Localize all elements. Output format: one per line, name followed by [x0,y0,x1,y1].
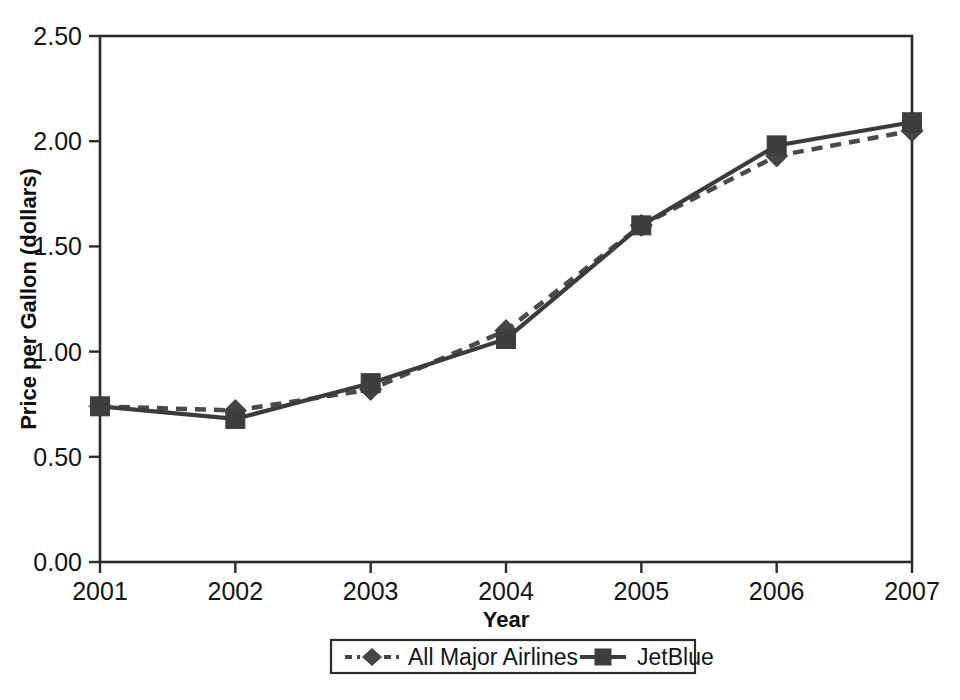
data-point-marker [226,409,245,428]
x-tick-label: 2001 [72,577,128,605]
legend-label-jetblue: JetBlue [637,644,714,670]
data-point-marker [497,329,516,348]
data-point-marker [767,136,786,155]
series-line-all-major-airlines [100,131,912,411]
legend-label-all-major-airlines: All Major Airlines [408,644,578,670]
square-marker-icon [595,649,611,665]
chart-legend: All Major Airlines JetBlue [331,640,714,673]
chart-figure: 0.000.501.001.502.002.50 200120022003200… [0,0,960,700]
y-tick-label: 0.00 [33,548,82,576]
y-axis-ticks [89,36,100,562]
plot-border [100,36,912,562]
x-axis-ticks [100,562,912,573]
data-point-marker [361,374,380,393]
x-tick-label: 2006 [749,577,805,605]
x-axis-tick-labels: 2001200220032004200520062007 [72,577,940,605]
x-tick-label: 2002 [208,577,264,605]
line-chart: 0.000.501.001.502.002.50 200120022003200… [0,0,960,700]
series-markers-jetblue [91,113,922,429]
x-tick-label: 2003 [343,577,399,605]
data-point-marker [632,216,651,235]
y-tick-label: 2.00 [33,127,82,155]
series-line-jetblue [100,122,912,419]
data-point-marker [903,113,922,132]
y-tick-label: 2.50 [33,22,82,50]
y-axis-title: Price per Gallon (dollars) [16,168,41,430]
series-markers-all-major-airlines [89,120,923,422]
x-tick-label: 2005 [614,577,670,605]
x-tick-label: 2004 [478,577,534,605]
plot-frame [100,36,912,562]
y-tick-label: 0.50 [33,443,82,471]
data-point-marker [91,397,110,416]
x-axis-title: Year [483,607,530,632]
x-tick-label: 2007 [884,577,940,605]
